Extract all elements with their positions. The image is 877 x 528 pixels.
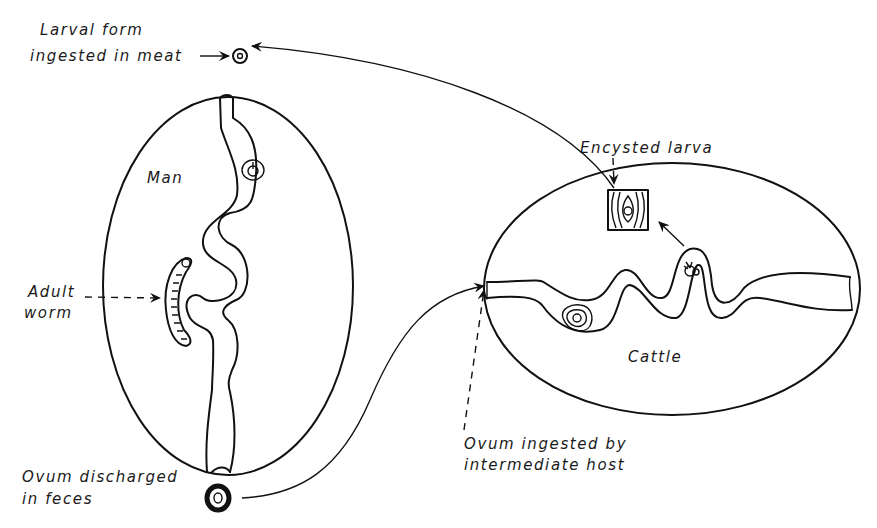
encysted-larva-pointer — [613, 158, 614, 184]
ovum-ingested-label-line1: Ovum ingested by — [464, 435, 627, 453]
ovum-ingested-pointer — [464, 290, 484, 430]
encysted-larva-label: Encysted larva — [580, 139, 713, 157]
tapeworm-life-cycle-diagram: Man Cattle — [0, 0, 877, 528]
cattle-anus — [849, 277, 852, 310]
adult-worm-label-line2: worm — [24, 304, 73, 322]
migration-arrow — [659, 222, 684, 246]
man-host: Man — [103, 95, 353, 475]
meat-transmission-arrow — [252, 46, 614, 188]
encysted-larva-icon — [608, 190, 648, 230]
larval-form-icon — [233, 49, 247, 63]
larva-in-stomach-icon — [242, 160, 264, 180]
cattle-host: Cattle — [484, 163, 860, 415]
ovum-discharged-label-line2: in feces — [22, 490, 93, 508]
man-label: Man — [147, 169, 183, 187]
cattle-label: Cattle — [628, 348, 682, 366]
adult-worm-pointer — [85, 297, 160, 298]
man-anus — [212, 468, 230, 473]
man-body-outline — [103, 97, 353, 475]
cattle-body-outline — [484, 163, 860, 415]
ovum-in-feces-icon — [207, 486, 229, 510]
ovum-ingested-label-line2: intermediate host — [464, 456, 625, 474]
hatched-larva-icon — [684, 262, 699, 276]
feces-transmission-arrow — [242, 286, 484, 498]
larval-form-label-line1: Larval form — [40, 21, 144, 39]
ovum-discharged-label-line1: Ovum discharged — [22, 468, 178, 486]
adult-worm-label-line1: Adult — [27, 283, 75, 301]
larval-form-label-line2: ingested in meat — [30, 47, 183, 65]
cattle-intestine — [487, 249, 852, 332]
man-intestine — [187, 98, 257, 472]
